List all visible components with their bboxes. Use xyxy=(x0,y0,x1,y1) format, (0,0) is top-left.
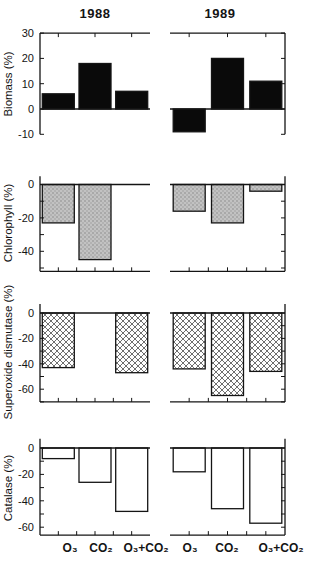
x-tick-label-o3co2-1988: O₃+CO₂ xyxy=(123,541,168,555)
bar-row0-1989-cat2 xyxy=(250,81,282,109)
y-tick-label: 0 xyxy=(28,307,34,319)
bar-row2-1989-cat0 xyxy=(173,313,205,369)
y-tick-label: -60 xyxy=(18,521,34,533)
y-axis-title-chlorophyll: Chlorophyll (%) xyxy=(2,184,15,263)
x-tick-label-o3-1989: O₃ xyxy=(183,541,198,555)
x-tick-label-o3co2-1989: O₃+CO₂ xyxy=(258,541,303,555)
y-tick-label: 30 xyxy=(22,27,34,39)
chart-canvas: 3020100-100-20-400-20-40-600-20-40-60 xyxy=(0,0,316,564)
y-tick-label: 0 xyxy=(28,178,34,190)
column-header-1988: 1988 xyxy=(80,6,111,21)
bar-row2-1989-cat2 xyxy=(250,313,282,371)
y-tick-label: 0 xyxy=(28,442,34,454)
bar-row1-1989-cat1 xyxy=(212,185,244,223)
bar-row3-1988-cat2 xyxy=(116,448,148,511)
y-axis-title-biomass: Biomass (%) xyxy=(2,51,15,116)
y-tick-label: -10 xyxy=(18,128,34,140)
y-tick-label: -20 xyxy=(18,212,34,224)
y-tick-label: -20 xyxy=(18,468,34,480)
bar-row1-1989-cat2 xyxy=(250,185,282,192)
bar-row2-1989-cat1 xyxy=(212,313,244,396)
bar-row3-1989-cat0 xyxy=(173,448,205,472)
y-tick-label: 20 xyxy=(22,52,34,64)
bar-row0-1989-cat1 xyxy=(212,58,244,109)
bar-row0-1988-cat2 xyxy=(116,91,148,109)
bar-row3-1989-cat1 xyxy=(212,448,244,509)
column-header-1989: 1989 xyxy=(205,6,236,21)
bar-row1-1988-cat0 xyxy=(42,185,74,223)
y-tick-label: -20 xyxy=(18,332,34,344)
y-axis-title-catalase: Catalase (%) xyxy=(2,455,15,521)
bar-row3-1988-cat1 xyxy=(79,448,111,482)
x-tick-label-co2-1989: CO₂ xyxy=(215,541,238,555)
y-tick-label: -60 xyxy=(18,383,34,395)
y-axis-title-superoxide-dismutase: Superoxide dismutase (%) xyxy=(2,285,15,420)
y-tick-label: 10 xyxy=(22,78,34,90)
figure: 3020100-100-20-400-20-40-600-20-40-60 19… xyxy=(0,0,316,564)
bar-row1-1989-cat0 xyxy=(173,185,205,212)
x-tick-label-o3-1988: O₃ xyxy=(63,541,78,555)
bar-row3-1989-cat2 xyxy=(250,448,282,523)
y-tick-label: 0 xyxy=(28,103,34,115)
y-tick-label: -40 xyxy=(18,358,34,370)
bar-row1-1988-cat1 xyxy=(79,185,111,260)
x-tick-label-co2-1988: CO₂ xyxy=(89,541,112,555)
bar-row0-1988-cat0 xyxy=(42,94,74,109)
bar-row3-1988-cat0 xyxy=(42,448,74,459)
y-tick-label: -40 xyxy=(18,495,34,507)
bar-row2-1988-cat0 xyxy=(42,313,74,368)
bar-row0-1988-cat1 xyxy=(79,64,111,110)
y-tick-label: -40 xyxy=(18,245,34,257)
bar-row0-1989-cat0 xyxy=(173,109,205,132)
bar-row2-1988-cat2 xyxy=(116,313,148,373)
